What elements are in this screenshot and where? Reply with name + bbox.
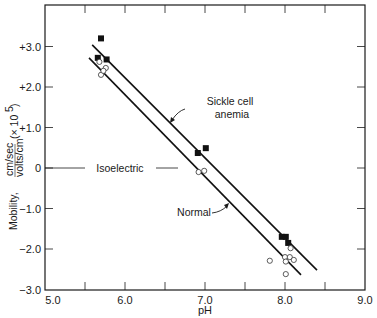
x-tick-label: 8.0 — [277, 294, 292, 306]
svg-text:Mobility,: Mobility, — [7, 192, 19, 230]
mobility-vs-ph-chart: 5.06.07.08.09.0 +3.0+2.0+1.00−1.0−2.0−3.… — [0, 0, 377, 318]
sickle-cell-point — [104, 56, 110, 62]
normal-label: Normal — [177, 206, 211, 218]
svg-text:): ) — [8, 104, 20, 108]
sickle-cell-point — [195, 150, 201, 156]
sickle-cell-point — [98, 35, 104, 41]
normal-point — [97, 59, 102, 64]
normal-point — [202, 168, 207, 173]
x-tick-label: 5.0 — [45, 294, 60, 306]
normal-point — [291, 257, 296, 262]
y-tick-label: +2.0 — [19, 81, 41, 93]
normal-arrow-icon — [212, 206, 227, 213]
x-axis-title: pH — [198, 304, 212, 316]
normal-point — [101, 68, 106, 73]
sickle-cell-label-line2: anemia — [215, 108, 250, 120]
isoelectric-label: Isoelectric — [96, 162, 143, 174]
y-tick-label: −1.0 — [19, 203, 41, 215]
fit-lines — [89, 45, 317, 275]
sickle-cell-arrow-icon — [172, 109, 185, 120]
sickle-cell-label-line1: Sickle cell — [207, 95, 254, 107]
data-points — [95, 35, 297, 276]
svg-text:(× 10: (× 10 — [8, 115, 20, 139]
normal-point — [283, 259, 288, 264]
normal-point — [283, 272, 288, 277]
x-tick-label: 6.0 — [117, 294, 132, 306]
sickle-cell-arrowhead-icon — [170, 117, 175, 123]
sickle-cell-point — [285, 240, 291, 246]
sickle-cell-point — [203, 145, 209, 151]
y-tick-label: +1.0 — [19, 122, 41, 134]
y-tick-label: −3.0 — [19, 284, 41, 296]
normal-point — [267, 258, 272, 263]
svg-text:volts/cm: volts/cm — [13, 138, 25, 177]
normal-point — [288, 246, 293, 251]
y-tick-label: 0 — [35, 162, 41, 174]
y-tick-label: +3.0 — [19, 41, 41, 53]
normal-point — [196, 169, 201, 174]
x-axis-ticks: 5.06.07.08.09.0 — [45, 5, 372, 306]
x-tick-label: 9.0 — [357, 294, 372, 306]
sickle-cell-point — [283, 234, 289, 240]
y-tick-label: −2.0 — [19, 243, 41, 255]
